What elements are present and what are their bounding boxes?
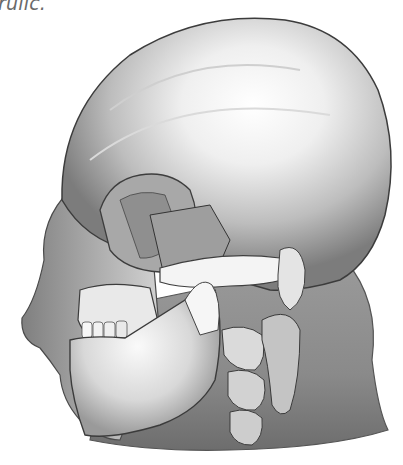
ct-head-rendering [0, 0, 403, 465]
